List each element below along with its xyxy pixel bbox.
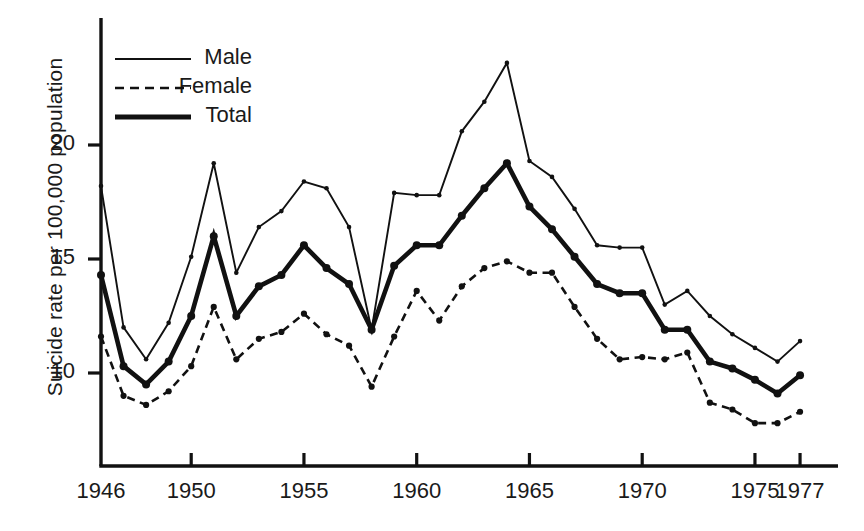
series-marker-male — [257, 225, 262, 230]
series-marker-total — [435, 241, 443, 249]
series-marker-male — [505, 61, 510, 66]
series-marker-female — [120, 393, 126, 399]
series-marker-total — [232, 312, 240, 320]
series-marker-female — [166, 388, 172, 394]
series-marker-female — [797, 409, 803, 415]
series-marker-male — [211, 161, 216, 166]
series-marker-female — [391, 333, 397, 339]
series-marker-total — [165, 358, 173, 366]
series-marker-male — [753, 346, 758, 351]
series-marker-male — [144, 357, 149, 362]
series-marker-male — [121, 325, 126, 330]
series-line-male — [101, 63, 800, 362]
series-marker-male — [685, 289, 690, 294]
series-marker-total — [706, 358, 714, 366]
series-marker-female — [369, 384, 375, 390]
series-marker-total — [593, 280, 601, 288]
series-marker-male — [302, 179, 307, 184]
series-marker-total — [638, 289, 646, 297]
series-marker-female — [594, 336, 600, 342]
series-marker-female — [211, 304, 217, 310]
series-marker-total — [458, 212, 466, 220]
series-marker-total — [187, 312, 195, 320]
series-marker-total — [413, 241, 421, 249]
series-marker-male — [572, 207, 577, 212]
series-marker-female — [98, 333, 104, 339]
series-marker-female — [684, 349, 690, 355]
series-marker-female — [481, 265, 487, 271]
series-marker-total — [548, 225, 556, 233]
series-marker-male — [166, 321, 171, 326]
series-marker-male — [482, 99, 487, 104]
series-marker-total — [503, 159, 511, 167]
series-marker-female — [662, 356, 668, 362]
series-marker-total — [571, 253, 579, 261]
series-marker-female — [526, 270, 532, 276]
series-marker-total — [774, 390, 782, 398]
series-marker-male — [99, 184, 104, 189]
series-marker-total — [210, 232, 218, 240]
series-marker-female — [707, 400, 713, 406]
series-marker-total — [277, 271, 285, 279]
series-marker-female — [752, 420, 758, 426]
series-marker-total — [323, 264, 331, 272]
series-marker-total — [661, 326, 669, 334]
series-marker-male — [595, 243, 600, 248]
series-marker-total — [683, 326, 691, 334]
series-marker-female — [301, 311, 307, 317]
series-marker-total — [616, 289, 624, 297]
series-marker-female — [323, 331, 329, 337]
series-marker-total — [345, 280, 353, 288]
series-marker-total — [390, 262, 398, 270]
series-marker-female — [346, 343, 352, 349]
series-marker-total — [368, 326, 376, 334]
series-marker-female — [143, 402, 149, 408]
series-marker-male — [347, 225, 352, 230]
series-marker-total — [142, 380, 150, 388]
series-marker-female — [233, 356, 239, 362]
series-marker-total — [255, 282, 263, 290]
series-marker-male — [730, 332, 735, 337]
series-marker-total — [525, 203, 533, 211]
series-marker-male — [798, 339, 803, 344]
series-marker-male — [527, 159, 532, 164]
series-marker-male — [324, 186, 329, 191]
series-marker-total — [751, 376, 759, 384]
series-marker-female — [256, 336, 262, 342]
chart-figure: Suicide rate per 100,000 population 2015… — [0, 0, 864, 531]
series-marker-male — [279, 209, 284, 214]
series-marker-total — [480, 184, 488, 192]
series-marker-male — [640, 245, 645, 250]
series-marker-total — [120, 362, 128, 370]
series-marker-total — [97, 271, 105, 279]
series-marker-female — [436, 317, 442, 323]
series-marker-total — [300, 241, 308, 249]
series-marker-female — [188, 363, 194, 369]
series-marker-female — [639, 354, 645, 360]
series-marker-female — [459, 283, 465, 289]
series-marker-female — [729, 406, 735, 412]
series-marker-male — [414, 193, 419, 198]
series-marker-total — [796, 371, 804, 379]
series-marker-female — [617, 356, 623, 362]
series-marker-male — [550, 175, 555, 180]
series-marker-male — [437, 193, 442, 198]
series-marker-male — [460, 129, 465, 134]
series-marker-female — [774, 420, 780, 426]
series-marker-female — [278, 329, 284, 335]
series-marker-male — [234, 270, 239, 275]
plot-area — [0, 0, 864, 531]
series-marker-female — [504, 258, 510, 264]
series-marker-male — [617, 245, 622, 250]
series-marker-male — [708, 314, 713, 319]
series-marker-female — [549, 270, 555, 276]
series-marker-female — [571, 304, 577, 310]
series-marker-male — [189, 254, 194, 259]
series-marker-male — [392, 191, 397, 196]
series-marker-total — [728, 364, 736, 372]
series-marker-male — [775, 359, 780, 364]
series-marker-female — [414, 288, 420, 294]
series-marker-male — [662, 302, 667, 307]
